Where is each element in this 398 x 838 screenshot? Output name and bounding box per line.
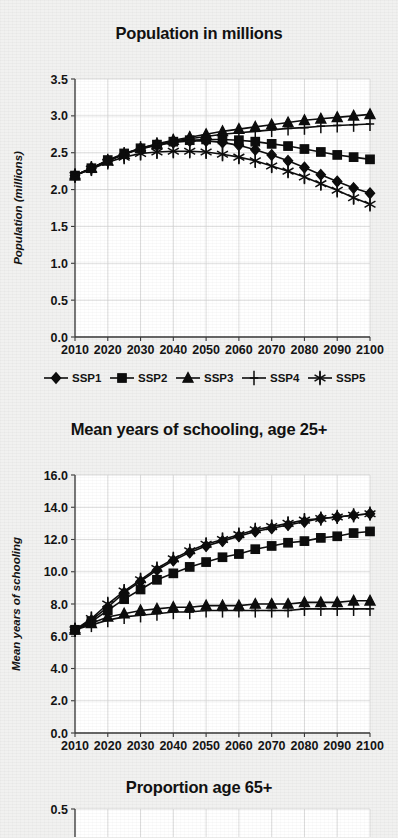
chart-title-population: Population in millions (0, 24, 398, 43)
marker-square (366, 155, 374, 163)
marker-plus (250, 371, 258, 385)
y-tick-label: 6.0 (51, 630, 68, 644)
plot-area (75, 809, 370, 837)
chart-title-proportion65: Proportion age 65+ (0, 778, 398, 797)
marker-square (349, 529, 357, 537)
legend-label: SSP3 (204, 372, 233, 384)
marker-square (251, 137, 259, 145)
y-tick-label: 12.0 (44, 533, 68, 547)
marker-diamond (51, 373, 60, 384)
marker-square (333, 532, 341, 540)
marker-square (251, 545, 259, 553)
marker-square (202, 558, 210, 566)
x-tick-label: 2080 (291, 343, 319, 357)
x-tick-label: 2090 (323, 739, 351, 753)
marker-square (333, 151, 341, 159)
x-tick-label: 2070 (258, 739, 286, 753)
proportion65-chart: 0.5 (0, 797, 398, 837)
y-tick-label: 0.5 (51, 294, 68, 308)
x-tick-label: 2010 (61, 343, 89, 357)
x-tick-label: 2050 (192, 739, 220, 753)
chart-title-schooling: Mean years of schooling, age 25+ (0, 420, 398, 439)
schooling-chart: 0.02.04.06.08.010.012.014.016.0201020202… (0, 439, 398, 769)
y-tick-label: 0.5 (51, 803, 68, 817)
y-axis-title: Population (millions) (12, 151, 24, 265)
x-tick-label: 2070 (258, 343, 286, 357)
y-tick-label: 2.0 (51, 694, 68, 708)
legend-item-SSP1[interactable]: SSP1 (44, 372, 102, 384)
y-tick-label: 16.0 (44, 469, 68, 483)
marker-square (300, 145, 308, 153)
y-tick-label: 1.5 (51, 220, 68, 234)
y-tick-label: 3.0 (51, 109, 68, 123)
x-tick-label: 2030 (127, 343, 155, 357)
legend-label: SSP2 (138, 372, 167, 384)
legend-label: SSP5 (336, 372, 366, 384)
marker-square (284, 539, 292, 547)
x-tick-label: 2020 (94, 739, 122, 753)
legend-item-SSP3[interactable]: SSP3 (176, 372, 233, 384)
x-tick-label: 2050 (192, 343, 220, 357)
legend-label: SSP1 (72, 372, 102, 384)
y-tick-label: 10.0 (44, 565, 68, 579)
y-tick-label: 3.5 (51, 73, 68, 87)
x-tick-label: 2090 (323, 343, 351, 357)
x-tick-label: 2010 (61, 739, 89, 753)
x-tick-label: 2060 (225, 343, 253, 357)
population-chart: 0.00.51.01.52.02.53.03.52010202020302040… (0, 43, 398, 373)
y-tick-label: 4.0 (51, 662, 68, 676)
marker-square (366, 527, 374, 535)
marker-square (169, 569, 177, 577)
x-tick-label: 2030 (127, 739, 155, 753)
marker-square (300, 537, 308, 545)
y-tick-label: 2.0 (51, 183, 68, 197)
y-tick-label: 8.0 (51, 598, 68, 612)
marker-square (349, 153, 357, 161)
panel-proportion65: Proportion age 65+ 0.5 (0, 778, 398, 837)
x-tick-label: 2040 (159, 739, 187, 753)
legend: SSP1SSP2SSP3SSP4SSP5 (0, 366, 398, 390)
marker-square (235, 550, 243, 558)
marker-square (186, 563, 194, 571)
panel-population: Population in millions 0.00.51.01.52.02.… (0, 24, 398, 373)
marker-square (317, 534, 325, 542)
legend-item-SSP5[interactable]: SSP5 (308, 371, 366, 385)
x-tick-label: 2100 (356, 343, 384, 357)
x-tick-label: 2060 (225, 739, 253, 753)
legend-item-SSP2[interactable]: SSP2 (110, 372, 167, 384)
legend-item-SSP4[interactable]: SSP4 (242, 371, 300, 385)
x-tick-label: 2100 (356, 739, 384, 753)
y-axis-title: Mean years of schooling (10, 537, 22, 671)
y-tick-label: 2.5 (51, 146, 68, 160)
marker-square (317, 148, 325, 156)
marker-square (267, 542, 275, 550)
marker-square (153, 576, 161, 584)
y-tick-label: 1.0 (51, 257, 68, 271)
x-tick-label: 2080 (291, 739, 319, 753)
marker-square (267, 140, 275, 148)
panel-schooling: Mean years of schooling, age 25+ 0.02.04… (0, 420, 398, 769)
legend-label: SSP4 (270, 372, 300, 384)
marker-square (218, 553, 226, 561)
x-tick-label: 2020 (94, 343, 122, 357)
marker-square (284, 142, 292, 150)
y-tick-label: 14.0 (44, 501, 68, 515)
marker-square (118, 374, 126, 382)
x-tick-label: 2040 (159, 343, 187, 357)
